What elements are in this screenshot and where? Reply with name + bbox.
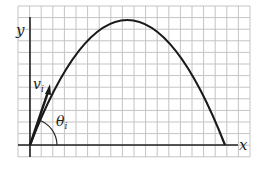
velocity-label: vi — [33, 76, 44, 94]
angle-label: θi — [56, 113, 67, 131]
grid — [18, 6, 250, 157]
x-axis-label: x — [239, 136, 248, 154]
arrowhead-icon — [45, 84, 51, 95]
projectile-diagram: y x vi θi — [0, 0, 262, 180]
y-axis-label: y — [15, 21, 25, 39]
